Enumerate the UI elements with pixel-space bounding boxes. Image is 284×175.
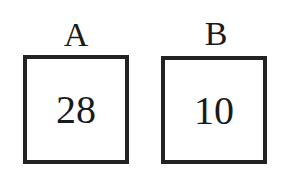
box-a: 28 [23, 55, 129, 164]
box-b-value: 10 [194, 87, 234, 134]
box-a-label: A [46, 18, 106, 52]
box-b-label: B [186, 17, 246, 51]
box-b: 10 [161, 56, 267, 164]
box-a-value: 28 [56, 86, 96, 133]
